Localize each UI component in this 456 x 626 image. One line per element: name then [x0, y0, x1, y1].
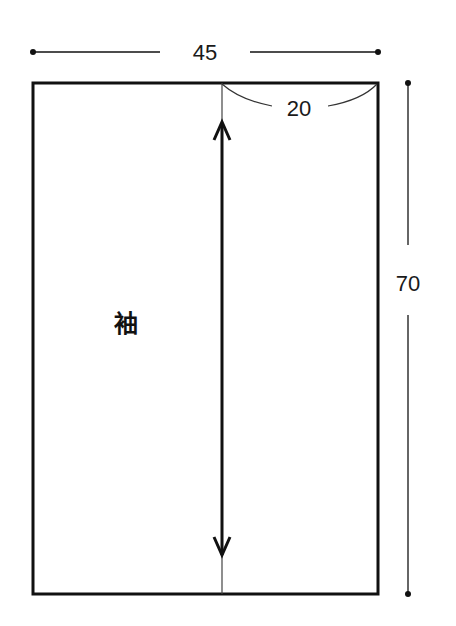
width-dim-label: 45: [193, 40, 217, 65]
width-dim-dot-right: [375, 49, 381, 55]
pattern-diagram: 45 20 70 袖: [0, 0, 456, 626]
piece-label: 袖: [114, 310, 138, 338]
height-dim-label: 70: [396, 271, 420, 296]
sleeve-outline: [33, 83, 378, 594]
height-dim-dot-top: [405, 80, 411, 86]
top-segment-dimension: 20: [222, 84, 377, 121]
segment-dim-label: 20: [287, 96, 311, 121]
height-dim-dot-bottom: [405, 591, 411, 597]
height-dimension: 70: [396, 80, 420, 597]
segment-arc-right: [328, 84, 377, 106]
grainline-arrow-icon: [214, 122, 230, 555]
width-dimension: 45: [30, 40, 381, 65]
width-dim-dot-left: [30, 49, 36, 55]
segment-arc-left: [222, 84, 272, 106]
